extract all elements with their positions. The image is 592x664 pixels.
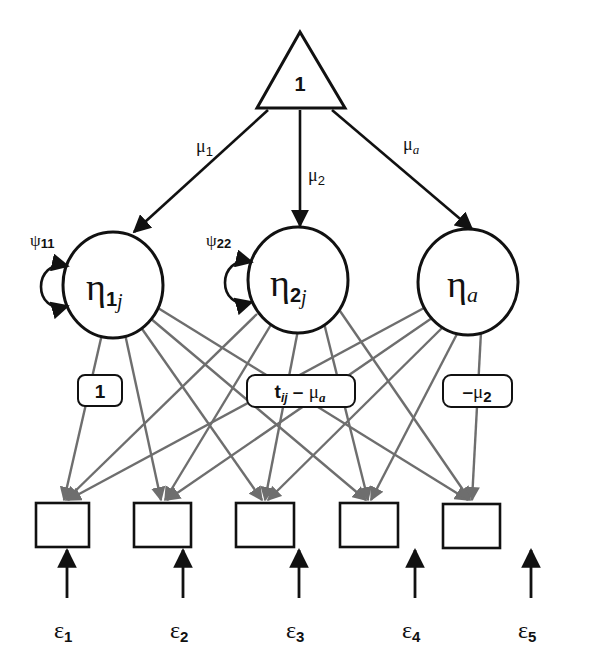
latent-etaa: ηa — [418, 229, 518, 335]
loading-etaa-y5 — [472, 332, 481, 500]
loading-etaa-y4 — [371, 332, 458, 500]
indicator-y4 — [340, 503, 398, 547]
loading-label-time: tij – μa — [247, 375, 355, 407]
latent-eta2: η2j — [248, 227, 348, 333]
error-label-2: ε2 — [170, 617, 188, 645]
error-label-4: ε4 — [402, 617, 421, 645]
indicator-y5 — [443, 504, 500, 548]
mean-label-mu2: μ2 — [308, 165, 325, 188]
mean-paths — [134, 110, 472, 232]
mean-label-mua: μa — [403, 134, 420, 157]
error-label-3: ε3 — [286, 617, 304, 645]
latent-eta1: η1j — [63, 232, 163, 338]
mean-path-etaa — [332, 110, 472, 229]
loading-label-1: 1 — [78, 375, 122, 406]
constant-triangle: 1 — [257, 32, 345, 108]
error-labels: ε1 ε2 ε3 ε4 ε5 — [54, 617, 536, 645]
mean-label-mu1: μ1 — [196, 136, 213, 159]
error-arrows — [67, 550, 531, 598]
svg-text:1: 1 — [294, 73, 305, 95]
error-label-1: ε1 — [54, 617, 72, 645]
indicator-y1 — [36, 503, 89, 547]
loading-etaa-y2 — [167, 318, 432, 500]
loading-eta1-y3 — [140, 326, 262, 500]
loading-label-neg-mu2: –μ2 — [443, 375, 512, 407]
indicator-y2 — [134, 503, 191, 547]
mean-path-eta1 — [134, 110, 268, 232]
indicators — [36, 503, 500, 548]
indicator-y3 — [236, 503, 294, 547]
error-label-5: ε5 — [518, 617, 536, 645]
loading-eta1-y1 — [64, 334, 102, 500]
loading-eta1-y2 — [125, 334, 161, 500]
path-diagram: 1 tij – μa –μ2 1 μ1 μ2 μa η1j η2j ηa — [0, 0, 592, 664]
variance-label-psi11: ψ11 — [30, 231, 54, 251]
variance-label-psi22: ψ22 — [206, 231, 231, 251]
loading-eta2-y2 — [165, 323, 272, 500]
svg-text:1: 1 — [95, 381, 106, 402]
